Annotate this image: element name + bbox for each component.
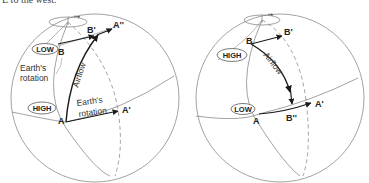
earth-rotation-label-upper-2: rotation bbox=[20, 73, 49, 83]
left-globe: LOW HIGH B B' A'' A A' Earth's rotation … bbox=[11, 14, 179, 182]
point-b-double-prime: B'' bbox=[286, 113, 297, 123]
globe-outline bbox=[196, 14, 364, 182]
low-label: LOW bbox=[234, 105, 252, 114]
low-label: LOW bbox=[36, 45, 54, 54]
point-a-double-prime: A'' bbox=[113, 20, 124, 30]
high-label: HIGH bbox=[223, 51, 242, 60]
latitude-line bbox=[196, 78, 358, 119]
point-b: B bbox=[246, 36, 253, 46]
high-label: HIGH bbox=[33, 104, 52, 113]
coriolis-diagram: LOW HIGH B B' A'' A A' Earth's rotation … bbox=[0, 0, 369, 183]
point-a-prime: A' bbox=[315, 99, 324, 109]
airflow-label: Airflow bbox=[70, 60, 88, 88]
arrow-b-to-b-prime bbox=[58, 36, 94, 44]
point-a: A bbox=[58, 116, 65, 126]
right-globe: HIGH LOW B B' A B'' A' Airflow bbox=[196, 14, 364, 182]
point-a-prime: A' bbox=[122, 105, 131, 115]
earth-rotation-label-upper-1: Earth's bbox=[20, 63, 46, 73]
point-b-prime: B' bbox=[284, 27, 293, 37]
point-b-prime: B' bbox=[87, 25, 96, 35]
point-b: B bbox=[58, 47, 65, 57]
rotation-arrow-icon bbox=[49, 16, 87, 27]
point-a: A bbox=[253, 116, 260, 126]
meridian-back bbox=[262, 20, 308, 176]
